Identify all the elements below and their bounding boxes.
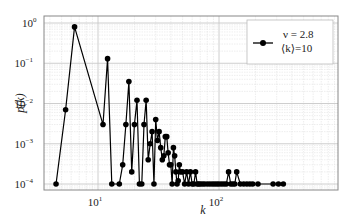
- data-point: [234, 169, 240, 175]
- legend-marker: [260, 40, 266, 46]
- data-point: [276, 181, 282, 187]
- data-point: [165, 150, 171, 156]
- y-tick-label: 10−3: [15, 137, 34, 150]
- data-point: [145, 157, 151, 163]
- data-point: [109, 181, 115, 187]
- data-point: [132, 122, 138, 128]
- data-point: [250, 181, 256, 187]
- legend-label-nu: ν = 2.8: [283, 28, 314, 40]
- data-point: [193, 169, 199, 175]
- data-point: [177, 162, 183, 168]
- y-axis-label: p(k): [13, 93, 27, 113]
- data-point: [143, 98, 149, 104]
- data-point: [232, 181, 238, 187]
- y-tick-label: 100: [22, 16, 37, 29]
- data-point: [175, 178, 181, 184]
- data-point: [139, 181, 145, 187]
- data-point: [270, 181, 276, 187]
- data-point: [100, 122, 106, 128]
- data-point: [149, 129, 155, 135]
- data-point: [153, 117, 159, 123]
- y-tick-label: 10−4: [15, 177, 34, 190]
- data-point: [281, 181, 287, 187]
- data-point: [188, 169, 194, 175]
- data-point: [63, 107, 69, 113]
- data-point: [141, 122, 147, 128]
- data-point: [158, 145, 164, 151]
- data-point: [105, 56, 111, 62]
- data-point: [53, 181, 59, 187]
- x-tick-label: 102: [209, 195, 224, 208]
- data-point: [156, 129, 162, 135]
- chart: 10010−110−210−310−4101102 ν = 2.8 ⟨k⟩=10…: [0, 0, 347, 224]
- data-point: [172, 153, 178, 159]
- legend-label-mean-k: ⟨k⟩=10: [281, 42, 313, 54]
- data-point: [226, 169, 232, 175]
- x-tick-label: 101: [88, 195, 103, 208]
- data-point: [123, 122, 129, 128]
- data-point: [169, 181, 175, 187]
- data-point: [129, 169, 135, 175]
- data-point: [126, 79, 132, 85]
- data-point: [120, 162, 126, 168]
- data-point: [171, 145, 177, 151]
- data-point: [72, 24, 78, 30]
- data-point: [117, 181, 123, 187]
- data-point: [164, 134, 170, 140]
- data-point: [155, 138, 161, 144]
- y-tick-label: 10−1: [15, 56, 34, 69]
- data-point: [134, 98, 140, 104]
- legend: ν = 2.8 ⟨k⟩=10: [247, 20, 333, 64]
- data-point: [151, 181, 157, 187]
- x-axis-label: k: [200, 203, 206, 217]
- data-point: [255, 181, 261, 187]
- data-point: [147, 141, 153, 147]
- data-point: [168, 162, 174, 168]
